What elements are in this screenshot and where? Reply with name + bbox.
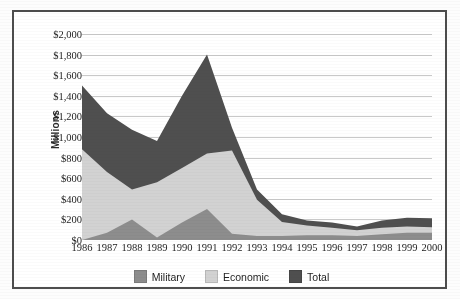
chart-legend: MilitaryEconomicTotal — [14, 270, 449, 283]
y-tick-label: $200 — [61, 214, 82, 225]
legend-label: Military — [152, 271, 185, 283]
y-tick-label: $1,400 — [53, 90, 82, 101]
legend-swatch-icon — [289, 270, 302, 283]
y-tick-label: $2,000 — [53, 29, 82, 40]
legend-item-economic[interactable]: Economic — [205, 270, 269, 283]
area-series-canvas — [82, 34, 432, 240]
legend-label: Total — [307, 271, 329, 283]
x-tick-label: 1986 — [72, 242, 93, 253]
y-axis-tick-labels: $2,000$1,800$1,600$1,400$1,200$1,000$800… — [28, 34, 82, 240]
legend-item-military[interactable]: Military — [134, 270, 185, 283]
y-tick-label: $800 — [61, 152, 82, 163]
y-tick-label: $400 — [61, 193, 82, 204]
x-tick-label: 2000 — [422, 242, 443, 253]
y-tick-label: $1,800 — [53, 49, 82, 60]
x-tick-label: 1988 — [122, 242, 143, 253]
legend-swatch-icon — [134, 270, 147, 283]
x-tick-label: 1990 — [172, 242, 193, 253]
plot-area — [82, 34, 432, 240]
legend-label: Economic — [223, 271, 269, 283]
x-tick-label: 1997 — [347, 242, 368, 253]
x-tick-label: 1995 — [297, 242, 318, 253]
x-tick-label: 1992 — [222, 242, 243, 253]
x-tick-label: 1998 — [372, 242, 393, 253]
legend-swatch-icon — [205, 270, 218, 283]
x-tick-label: 1999 — [397, 242, 418, 253]
legend-item-total[interactable]: Total — [289, 270, 329, 283]
x-tick-label: 1993 — [247, 242, 268, 253]
x-tick-label: 1991 — [197, 242, 218, 253]
y-tick-label: $1,200 — [53, 111, 82, 122]
x-tick-label: 1989 — [147, 242, 168, 253]
y-tick-label: $1,000 — [53, 132, 82, 143]
x-axis-tick-labels: 1986198719881989199019911992199319941995… — [82, 242, 432, 258]
x-tick-label: 1996 — [322, 242, 343, 253]
chart-frame: Millions $2,000$1,800$1,600$1,400$1,200$… — [12, 10, 447, 289]
y-tick-label: $600 — [61, 173, 82, 184]
y-tick-label: $1,600 — [53, 70, 82, 81]
x-tick-label: 1987 — [97, 242, 118, 253]
chart-screenshot: Millions $2,000$1,800$1,600$1,400$1,200$… — [0, 0, 460, 299]
x-tick-label: 1994 — [272, 242, 293, 253]
